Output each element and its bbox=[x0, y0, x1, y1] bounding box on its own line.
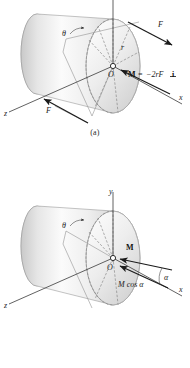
figure-caption-a: (a) bbox=[0, 128, 190, 137]
alpha-arc-b bbox=[159, 268, 162, 285]
moment-value-a: −2rF bbox=[146, 70, 164, 79]
figure-b: y x z θ M M cos α bbox=[0, 184, 190, 368]
z-axis-label-a: z bbox=[3, 109, 8, 118]
figure-a-svg: x z θ r F F bbox=[0, 0, 190, 184]
figure-a-canvas: x z θ r F F bbox=[0, 0, 190, 184]
alpha-annotation-b: α bbox=[159, 268, 169, 285]
force-label-upper-a: F bbox=[157, 20, 163, 29]
moment-label-a: M bbox=[128, 70, 136, 79]
y-axis-label-b: y bbox=[108, 187, 113, 196]
moment-unit-vector-a: i bbox=[172, 70, 175, 79]
z-axis-label-b: z bbox=[3, 301, 8, 310]
x-axis-label-a: x bbox=[178, 93, 183, 102]
figure-b-canvas: y x z θ M M cos α bbox=[0, 184, 190, 368]
origin-marker-b bbox=[110, 255, 115, 260]
theta-label-b: θ bbox=[62, 221, 66, 230]
moment-equals-a: = bbox=[138, 70, 143, 79]
origin-label-a: O bbox=[108, 70, 114, 79]
cylinder-a bbox=[21, 14, 140, 113]
figure-a: x z θ r F F bbox=[0, 0, 190, 184]
cylinder-b bbox=[21, 206, 140, 305]
origin-label-b: O bbox=[107, 263, 113, 272]
moment-component-label-b: M cos α bbox=[117, 280, 144, 289]
theta-label-a: θ bbox=[62, 29, 66, 38]
figure-page: x z θ r F F bbox=[0, 0, 190, 368]
alpha-label-b: α bbox=[164, 273, 169, 282]
moment-label-b: M bbox=[126, 243, 134, 252]
force-label-lower-a: F bbox=[45, 106, 51, 115]
figure-b-svg: y x z θ M M cos α bbox=[0, 184, 190, 368]
x-axis-label-b: x bbox=[178, 285, 183, 294]
origin-marker-a bbox=[110, 63, 115, 68]
